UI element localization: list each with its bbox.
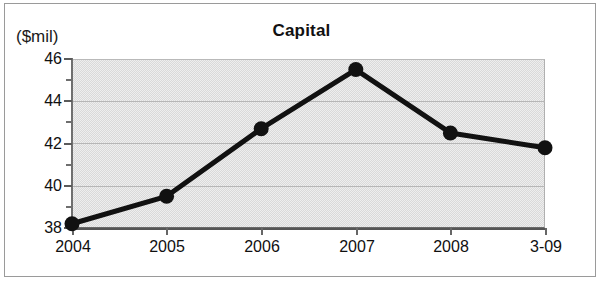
data-point-2004 [65, 216, 80, 231]
data-point-2007 [348, 62, 363, 77]
data-point-2005 [159, 189, 174, 204]
data-point-3-09 [538, 140, 553, 155]
data-point-2006 [254, 121, 269, 136]
capital-line-chart-figure: ($mil) Capital 46 44 42 40 38 2004 2005 … [0, 0, 603, 284]
capital-line-path [72, 70, 545, 224]
data-point-2008 [443, 125, 458, 140]
series-layer [0, 0, 603, 284]
